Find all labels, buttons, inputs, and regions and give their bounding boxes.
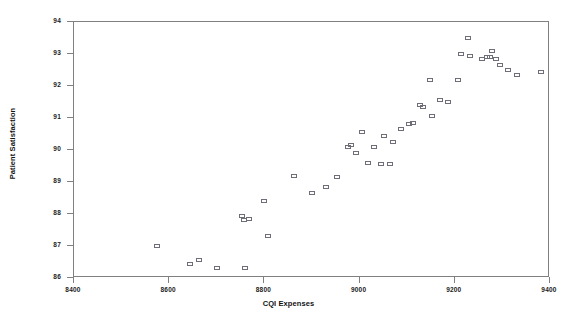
data-point: [489, 49, 495, 53]
data-point: [291, 174, 297, 178]
y-tick-mark: [67, 85, 73, 86]
data-point: [455, 78, 461, 82]
x-tick-label: 8400: [48, 286, 98, 293]
y-tick-label: 90: [21, 145, 61, 152]
x-axis-title: CQI Expenses: [0, 299, 577, 308]
data-point: [390, 140, 396, 144]
data-point: [410, 121, 416, 125]
x-tick-mark: [263, 277, 264, 283]
y-tick-label: 92: [21, 81, 61, 88]
data-point: [387, 162, 393, 166]
y-tick-mark: [67, 245, 73, 246]
data-point: [505, 68, 511, 72]
y-tick-mark: [67, 53, 73, 54]
y-tick-label: 87: [21, 241, 61, 248]
y-tick-label: 88: [21, 209, 61, 216]
data-point: [359, 130, 365, 134]
x-tick-label: 9400: [524, 286, 574, 293]
data-point: [437, 98, 443, 102]
x-tick-mark: [549, 277, 550, 283]
data-point: [445, 100, 451, 104]
data-point: [242, 266, 248, 270]
data-point: [467, 54, 473, 58]
data-point: [398, 127, 404, 131]
scatter-chart: 868788899091929394 840086008800900092009…: [0, 0, 577, 318]
data-point: [334, 175, 340, 179]
y-tick-label: 91: [21, 113, 61, 120]
data-point: [381, 134, 387, 138]
data-point: [378, 162, 384, 166]
y-tick-mark: [67, 21, 73, 22]
y-tick-label: 94: [21, 17, 61, 24]
data-point: [427, 78, 433, 82]
y-tick-label: 89: [21, 177, 61, 184]
data-point: [323, 185, 329, 189]
data-point: [265, 234, 271, 238]
x-tick-mark: [168, 277, 169, 283]
data-point: [154, 244, 160, 248]
data-point: [458, 52, 464, 56]
x-tick-mark: [359, 277, 360, 283]
data-point: [187, 262, 193, 266]
y-axis-title: Patient Satisfaction: [8, 84, 17, 204]
x-tick-mark: [454, 277, 455, 283]
data-point: [429, 114, 435, 118]
data-point: [371, 145, 377, 149]
data-point: [538, 70, 544, 74]
data-points-layer: [74, 22, 548, 276]
x-tick-mark: [73, 277, 74, 283]
y-tick-mark: [67, 181, 73, 182]
x-tick-label: 9200: [429, 286, 479, 293]
x-tick-label: 8600: [143, 286, 193, 293]
data-point: [420, 105, 426, 109]
data-point: [465, 36, 471, 40]
data-point: [353, 151, 359, 155]
data-point: [196, 258, 202, 262]
y-tick-mark: [67, 213, 73, 214]
data-point: [246, 217, 252, 221]
y-tick-label: 93: [21, 49, 61, 56]
data-point: [261, 199, 267, 203]
y-tick-label: 86: [21, 273, 61, 280]
data-point: [214, 266, 220, 270]
y-tick-mark: [67, 117, 73, 118]
x-tick-label: 8800: [238, 286, 288, 293]
data-point: [493, 57, 499, 61]
data-point: [365, 161, 371, 165]
data-point: [497, 63, 503, 67]
data-point: [514, 73, 520, 77]
data-point: [348, 143, 354, 147]
data-point: [239, 214, 245, 218]
plot-area: [73, 21, 549, 277]
data-point: [309, 191, 315, 195]
y-tick-mark: [67, 149, 73, 150]
x-tick-label: 9000: [334, 286, 384, 293]
